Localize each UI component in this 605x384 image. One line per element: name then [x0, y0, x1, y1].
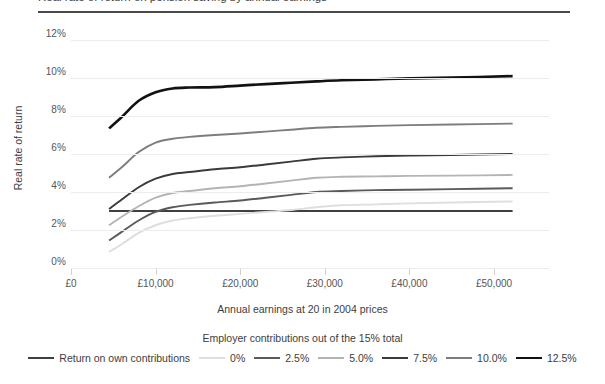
series-line	[109, 124, 513, 178]
x-tick-mark	[240, 269, 241, 275]
x-tick-mark	[156, 269, 157, 275]
gridline-y	[71, 116, 549, 117]
y-tick-label: 6%	[51, 142, 66, 153]
x-axis-title: Annual earnings at 20 in 2004 prices	[0, 303, 605, 315]
legend-item[interactable]: 2.5%	[254, 352, 309, 364]
y-tick-label: 0%	[51, 256, 66, 267]
legend-label: 5.0%	[349, 352, 373, 364]
x-tick-label: £0	[65, 278, 76, 289]
legend-item[interactable]: 12.5%	[516, 352, 577, 364]
x-tick-label: £20,000	[222, 278, 258, 289]
chart-title-text: Real rate of return on pension saving by…	[38, 0, 327, 3]
legend-items: Return on own contributions0%2.5%5.0%7.5…	[0, 352, 605, 364]
legend-swatch-icon	[382, 357, 408, 359]
legend-swatch-icon	[199, 357, 225, 359]
legend-item[interactable]: 5.0%	[318, 352, 373, 364]
legend-label: 10.0%	[477, 352, 507, 364]
gridline-y	[71, 78, 549, 79]
x-tick-mark	[494, 269, 495, 275]
plot-area	[71, 40, 549, 268]
legend-label: 12.5%	[547, 352, 577, 364]
series-line	[109, 202, 513, 252]
legend-swatch-icon	[446, 357, 472, 359]
gridline-y	[71, 230, 549, 231]
y-tick-label: 10%	[46, 66, 66, 77]
x-tick-mark	[71, 269, 72, 275]
legend-swatch-icon	[516, 357, 542, 360]
title-divider	[38, 11, 570, 13]
gridline-y	[71, 154, 549, 155]
x-tick-label: £10,000	[138, 278, 174, 289]
legend: Employer contributions out of the 15% to…	[0, 332, 605, 364]
chart-page: Real rate of return on pension saving by…	[0, 0, 605, 384]
legend-label: 7.5%	[413, 352, 437, 364]
legend-item[interactable]: Return on own contributions	[28, 352, 190, 364]
y-tick-label: 4%	[51, 180, 66, 191]
legend-item[interactable]: 0%	[199, 352, 245, 364]
y-tick-label: 12%	[46, 28, 66, 39]
series-line	[109, 76, 513, 128]
chart-title-clipped: Real rate of return on pension saving by…	[38, 0, 570, 9]
legend-swatch-icon	[254, 357, 280, 359]
legend-swatch-icon	[28, 357, 54, 359]
series-line	[109, 188, 513, 240]
series-line	[109, 175, 513, 225]
legend-swatch-icon	[318, 357, 344, 359]
y-tick-label: 8%	[51, 104, 66, 115]
legend-item[interactable]: 10.0%	[446, 352, 507, 364]
y-tick-label: 2%	[51, 218, 66, 229]
x-tick-label: £50,000	[476, 278, 512, 289]
gridline-y	[71, 192, 549, 193]
y-axis-tick-labels: 0%2%4%6%8%10%12%	[0, 0, 66, 384]
legend-item[interactable]: 7.5%	[382, 352, 437, 364]
y-axis-title: Real rate of return	[12, 78, 24, 218]
x-tick-label: £30,000	[307, 278, 343, 289]
series-line	[109, 154, 513, 209]
legend-label: 0%	[230, 352, 245, 364]
legend-label: 2.5%	[285, 352, 309, 364]
x-tick-mark	[325, 269, 326, 275]
x-tick-label: £40,000	[391, 278, 427, 289]
gridline-y	[71, 268, 549, 269]
legend-title: Employer contributions out of the 15% to…	[0, 332, 605, 344]
gridline-y	[71, 40, 549, 41]
legend-label: Return on own contributions	[59, 352, 190, 364]
x-tick-mark	[409, 269, 410, 275]
